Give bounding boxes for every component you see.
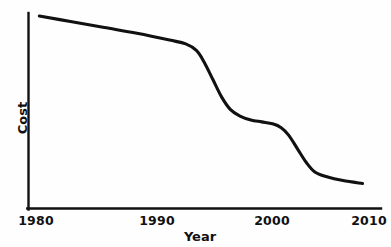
x-tick-label-2010: 2010 [351,213,387,228]
chart-plot-area [0,0,391,247]
x-tick-label-1980: 1980 [18,213,54,228]
y-axis-title: Cost [15,102,30,134]
x-tick-label-1990: 1990 [139,213,175,228]
cost-vs-year-chart: 1980 1990 2000 2010 Year Cost [0,0,391,247]
x-tick-label-2000: 2000 [254,213,290,228]
x-axis-title: Year [184,229,216,244]
cost-trend-line [39,16,362,183]
